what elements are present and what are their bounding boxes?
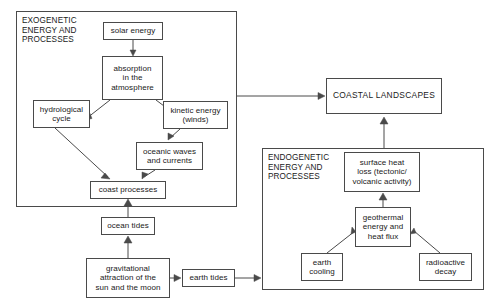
arrowhead-exogenetic-to-coastal — [318, 93, 325, 100]
arrowhead-gravitational-to-oceantides — [124, 236, 132, 243]
node-solar_energy: solar energy — [103, 22, 163, 40]
node-earth_cooling: earth cooling — [301, 253, 343, 281]
node-oceanic_waves: oceanic waves and currents — [136, 142, 203, 170]
node-geothermal: geothermal energy and heat flux — [355, 207, 411, 247]
node-coastal_landscapes: COASTAL LANDSCAPES — [326, 78, 442, 114]
arrowhead-endogenetic-to-coastal — [380, 117, 388, 124]
diagram-canvas: EXOGENETIC ENERGY AND PROCESSESENDOGENET… — [0, 0, 496, 308]
node-radioactive_decay: radioactive decay — [419, 253, 472, 281]
group-title-exogenetic: EXOGENETIC ENERGY AND PROCESSES — [22, 16, 77, 45]
node-coast_processes: coast processes — [90, 181, 166, 199]
node-kinetic_energy: kinetic energy (winds) — [163, 101, 228, 129]
node-absorption: absorption in the atmosphere — [102, 56, 163, 100]
node-surface_heat_loss: surface heat loss (tectonic/ volcanic ac… — [344, 152, 420, 192]
arrowhead-earthtides-to-endogenetic — [254, 275, 261, 282]
arrowhead-gravitational-to-earthtides — [174, 275, 181, 282]
node-ocean_tides: ocean tides — [101, 217, 155, 235]
node-hydrological: hydrological cycle — [33, 100, 90, 128]
node-earth_tides: earth tides — [182, 269, 235, 287]
node-gravitational: gravitational attraction of the sun and … — [86, 258, 170, 298]
group-title-endogenetic: ENDOGENETIC ENERGY AND PROCESSES — [268, 153, 329, 182]
